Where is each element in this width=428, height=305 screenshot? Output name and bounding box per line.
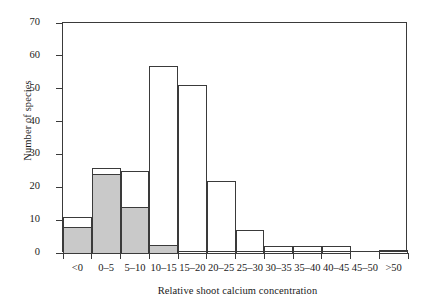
histogram-bar-total: [178, 85, 207, 254]
y-axis-tick-label: 40: [0, 116, 40, 127]
histogram-bar-total: [379, 250, 408, 254]
histogram-bar-total: [264, 246, 293, 254]
histogram-bar-shaded: [63, 227, 92, 254]
plot-area: 010203040506070<00–55–1010–1515–2020–252…: [62, 22, 407, 252]
histogram-bar-shaded: [92, 174, 121, 254]
y-axis-tick-label: 20: [0, 181, 40, 192]
y-axis-tick-label: 70: [0, 17, 40, 28]
y-axis-tick: [56, 23, 63, 24]
y-axis-tick-label: 50: [0, 83, 40, 94]
histogram-bar-total: [236, 230, 265, 254]
y-axis-tick: [56, 88, 63, 89]
y-axis-tick-label: 10: [0, 214, 40, 225]
y-axis-tick: [56, 187, 63, 188]
histogram-bar-total: [207, 181, 236, 254]
histogram-bar-total: [293, 246, 322, 254]
y-axis-tick: [56, 154, 63, 155]
y-axis-tick: [56, 220, 63, 221]
x-axis-tick-label: >50: [373, 263, 414, 274]
histogram-figure: Number of species Relative shoot calcium…: [0, 0, 428, 305]
x-axis-title: Relative shoot calcium concentration: [60, 285, 415, 296]
histogram-bar-total: [149, 66, 178, 254]
y-axis-tick: [56, 121, 63, 122]
y-axis-tick-label: 0: [0, 247, 40, 258]
histogram-bar-shaded: [149, 245, 178, 254]
y-axis-tick: [56, 55, 63, 56]
histogram-bar-total: [322, 246, 351, 254]
y-axis-tick-label: 30: [0, 148, 40, 159]
histogram-bar-shaded: [121, 207, 150, 254]
y-axis-tick-label: 60: [0, 50, 40, 61]
